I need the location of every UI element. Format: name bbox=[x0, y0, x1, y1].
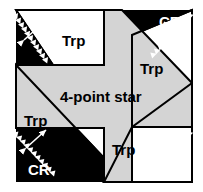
four-point-star-figure: 4-point star Trp Trp Trp Trp CR CR CR CR bbox=[0, 0, 203, 192]
figure-canvas bbox=[0, 0, 203, 192]
